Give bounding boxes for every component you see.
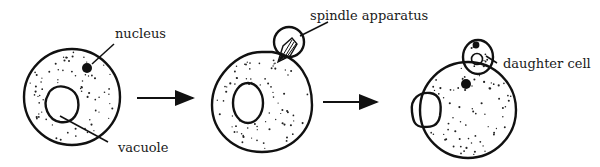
stage-1-cell — [24, 44, 120, 145]
label-spindle-apparatus: spindle apparatus — [310, 8, 428, 23]
stage-2-cell — [212, 22, 328, 152]
label-nucleus: nucleus — [115, 26, 166, 41]
cytoplasm-dots — [430, 68, 511, 155]
spindle-apparatus-shape — [278, 38, 297, 62]
vacuole-shape — [233, 83, 263, 123]
nucleus-shape — [82, 63, 92, 73]
spindle-leader-line — [300, 22, 328, 36]
label-vacuole: vacuole — [117, 140, 169, 155]
yeast-budding-diagram: nucleus vacuole spindle apparatus — [0, 0, 600, 167]
vacuole-shape — [412, 93, 441, 127]
label-daughter-cell: daughter cell — [503, 56, 591, 71]
nucleus-shape — [461, 79, 471, 89]
cytoplasm-dots — [29, 52, 113, 141]
cell-membrane — [420, 62, 516, 158]
cell-membrane — [24, 49, 120, 145]
vacuole-leader-line — [60, 116, 108, 142]
bud-shape — [274, 27, 304, 57]
stage-3-cell — [412, 40, 516, 158]
